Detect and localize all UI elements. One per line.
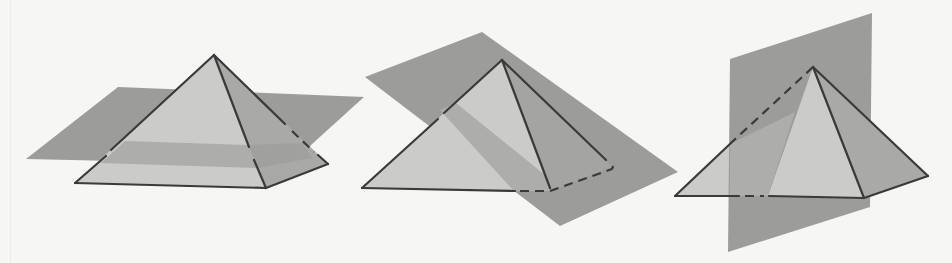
cross-section-diagram bbox=[0, 0, 952, 263]
pyramid-oblique-plane bbox=[362, 32, 678, 226]
figure-canvas bbox=[0, 0, 952, 263]
pyramid-vertical-plane bbox=[675, 13, 928, 252]
pyramid-horizontal-plane bbox=[26, 55, 364, 188]
